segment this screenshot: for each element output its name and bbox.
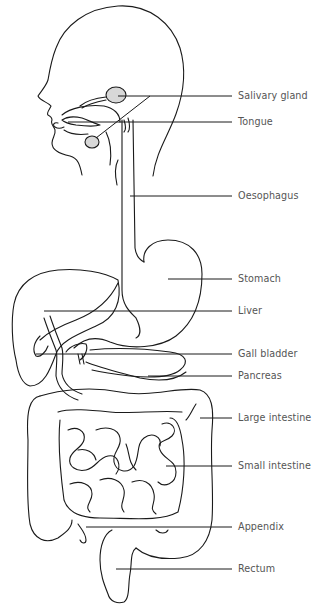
gall-bladder-organ xyxy=(34,316,87,400)
small-intestine-organ xyxy=(59,418,184,519)
label-stomach: Stomach xyxy=(238,273,281,285)
label-liver: Liver xyxy=(238,305,262,317)
tongue-organ xyxy=(54,105,130,185)
salivary-gland-organ xyxy=(80,87,126,108)
label-rectum: Rectum xyxy=(238,563,275,575)
label-appendix: Appendix xyxy=(238,521,284,533)
label-salivary-gland: Salivary gland xyxy=(238,90,308,102)
liver-organ xyxy=(12,269,119,386)
label-pancreas: Pancreas xyxy=(238,370,282,382)
label-tongue: Tongue xyxy=(238,116,273,128)
label-oesophagus: Oesophagus xyxy=(238,190,299,202)
label-small-intestine: Small intestine xyxy=(238,460,311,472)
oesophagus-organ xyxy=(122,120,144,338)
pancreas-organ xyxy=(86,349,186,380)
large-intestine-organ xyxy=(28,389,213,558)
label-large-intestine: Large intestine xyxy=(238,412,311,424)
rectum-organ xyxy=(100,530,136,603)
label-gall-bladder: Gall bladder xyxy=(238,348,298,360)
